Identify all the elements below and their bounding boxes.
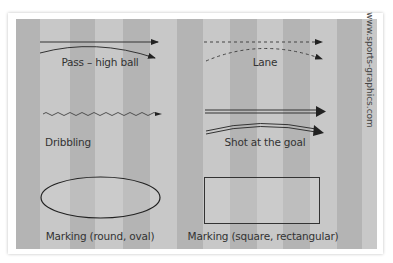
label-marking-oval: Marking (round, oval) (46, 230, 155, 242)
label-dribbling: Dribbling (45, 136, 91, 148)
label-pass-high-ball: Pass – high ball (61, 56, 138, 68)
shot-arrow-icon (205, 106, 326, 136)
label-marking-rect: Marking (square, rectangular) (188, 230, 339, 242)
marking-oval-icon (41, 177, 160, 218)
credit-url: www.sports-graphics.com (365, 12, 375, 128)
dribbling-wavy-arrow-icon (43, 112, 162, 116)
legend-symbols (0, 0, 393, 263)
marking-rect-icon (205, 178, 320, 224)
label-lane: Lane (253, 56, 278, 68)
label-shot-at-goal: Shot at the goal (225, 136, 306, 148)
